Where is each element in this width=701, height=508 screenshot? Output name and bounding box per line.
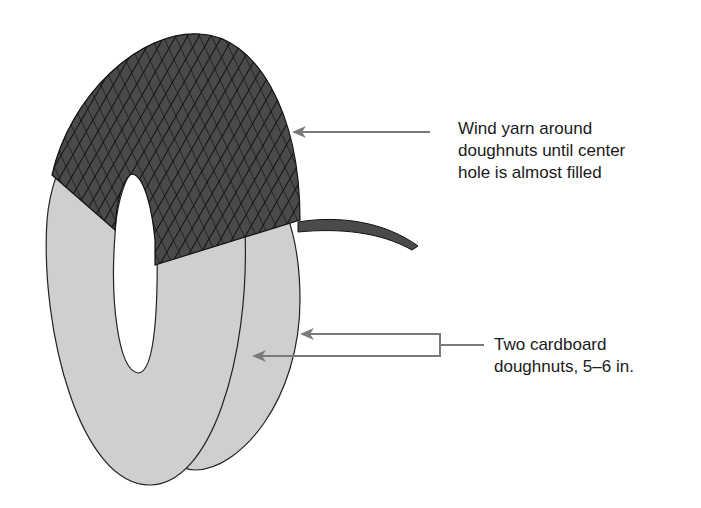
wind-yarn-label-line-1: Wind yarn around [458,118,625,140]
cardboard-label-line-2: doughnuts, 5–6 in. [494,356,634,378]
diagram-illustration [0,0,701,508]
yarn-callout-arrow [292,126,430,138]
cardboard-doughnuts-label: Two cardboard doughnuts, 5–6 in. [494,334,634,378]
cardboard-label-line-1: Two cardboard [494,334,634,356]
wind-yarn-label-line-3: hole is almost filled [458,162,625,184]
pompom-diagram: Wind yarn around doughnuts until center … [0,0,701,508]
wind-yarn-label: Wind yarn around doughnuts until center … [458,118,625,184]
wind-yarn-label-line-2: doughnuts until center [458,140,625,162]
